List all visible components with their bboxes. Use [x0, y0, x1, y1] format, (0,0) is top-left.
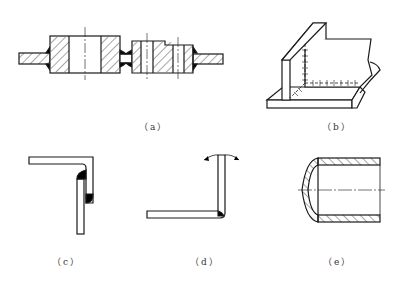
subfigure-e — [298, 158, 385, 222]
pipe-wall-top — [318, 158, 380, 165]
pipe-wall-bottom — [318, 215, 380, 222]
label-c: （c） — [52, 255, 81, 268]
subfigure-d — [147, 155, 239, 218]
subfigure-c — [29, 157, 93, 234]
corner-plate — [147, 155, 225, 218]
left-plate-section — [19, 53, 50, 64]
subfigure-b — [267, 23, 380, 108]
right-plate-section — [193, 54, 223, 64]
label-b: （b） — [322, 120, 352, 133]
back-plate — [305, 39, 372, 87]
front-plate — [282, 60, 290, 100]
label-d: （d） — [190, 255, 220, 268]
base-plate-front — [267, 100, 352, 108]
base-plate-top — [267, 87, 360, 100]
subfigure-a — [19, 27, 223, 80]
inner-plate — [77, 179, 84, 234]
label-a: （a） — [139, 120, 168, 133]
label-e: （e） — [323, 255, 352, 268]
connecting-tube — [120, 54, 132, 63]
weld-bead — [77, 170, 86, 179]
diagram-canvas — [0, 0, 397, 288]
